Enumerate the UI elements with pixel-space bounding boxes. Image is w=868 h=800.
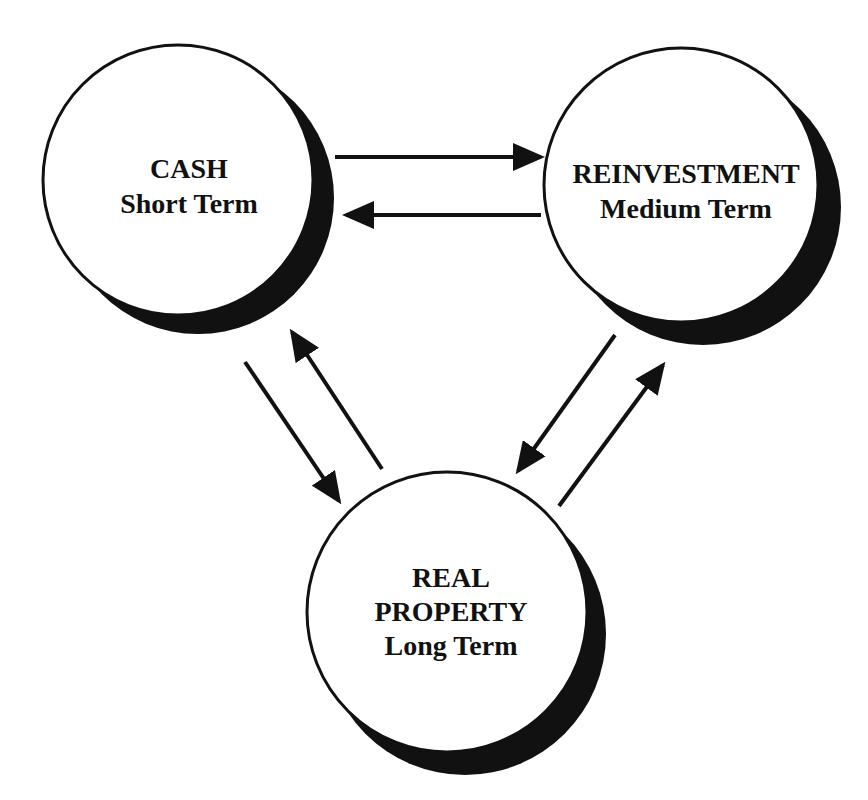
arrow-real-property-to-reinvestment: [559, 365, 663, 506]
node-real-property: REAL PROPERTY Long Term: [307, 472, 606, 775]
cash-title: CASH: [150, 153, 228, 184]
real-property-title-line1: REAL: [412, 562, 490, 593]
real-property-subtitle: Long Term: [384, 630, 517, 661]
reinvestment-subtitle: Medium Term: [600, 193, 772, 224]
node-reinvestment: REINVESTMENT Medium Term: [544, 48, 841, 345]
node-cash: CASH Short Term: [43, 45, 334, 334]
real-property-title-line2: PROPERTY: [374, 596, 527, 627]
investment-cycle-diagram: CASH Short Term REINVESTMENT Medium Term…: [0, 0, 868, 800]
cash-subtitle: Short Term: [120, 188, 258, 219]
reinvestment-title: REINVESTMENT: [572, 158, 799, 189]
